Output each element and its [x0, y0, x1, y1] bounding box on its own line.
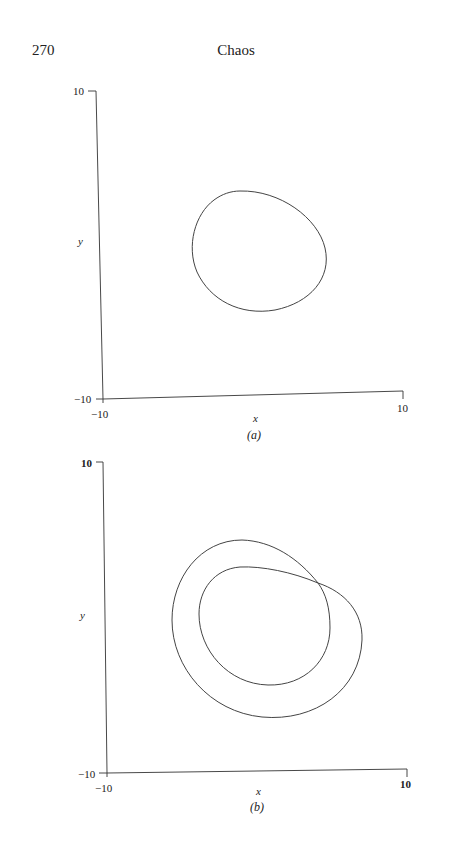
x-axis-label-b: x — [255, 785, 261, 797]
axes-a — [88, 91, 403, 403]
x-axis-label-a: x — [252, 412, 258, 424]
orbit-curve-a — [192, 191, 326, 311]
caption-b: (b) — [250, 800, 264, 814]
caption-a: (a) — [247, 428, 261, 442]
orbit-inner-loop-b — [199, 567, 330, 685]
y-tick-bottom-b: −10 — [78, 768, 96, 780]
x-axis-a — [96, 391, 403, 399]
figure-b: 10 −10 −10 10 y x (b) — [78, 457, 412, 814]
x-axis-b — [99, 769, 407, 777]
axes-b — [96, 462, 407, 777]
y-axis-label-b: y — [79, 609, 85, 621]
y-tick-top-a: 10 — [73, 85, 85, 97]
y-tick-bottom-a: −10 — [74, 393, 92, 405]
x-tick-right-a: 10 — [397, 402, 409, 414]
x-tick-left-a: −10 — [91, 408, 109, 420]
y-axis-a — [88, 91, 103, 399]
figure-a: 10 −10 −10 10 y x (a) — [73, 85, 409, 442]
y-tick-top-b: 10 — [81, 457, 93, 469]
y-axis-label-a: y — [77, 235, 83, 247]
x-tick-right-b: 10 — [400, 778, 412, 790]
figure-container: 10 −10 −10 10 y x (a) 10 −10 −10 10 y x … — [0, 0, 452, 849]
x-tick-left-b: −10 — [95, 782, 113, 794]
y-axis-b — [96, 462, 107, 773]
